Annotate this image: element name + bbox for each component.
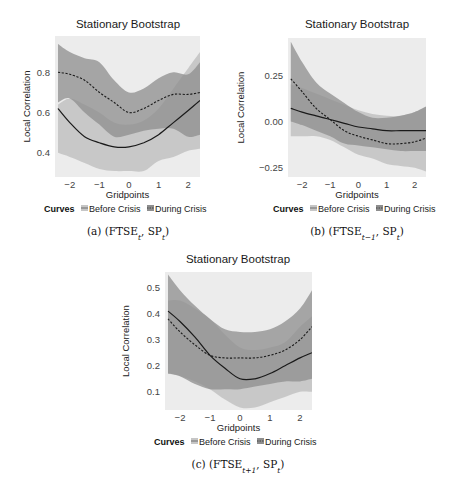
y-tick-label: 0.00 xyxy=(265,116,284,127)
legend-label-during: During Crisis xyxy=(265,437,317,447)
chart-panel-c: Stationary Bootstrap−2−10120.10.20.30.40… xyxy=(120,253,317,475)
legend-label-during: During Crisis xyxy=(384,204,436,214)
y-tick-label: 0.25 xyxy=(265,70,284,81)
x-tick-label: 2 xyxy=(412,179,417,190)
subfigure-caption: (a) (FTSEt, SPt) xyxy=(87,225,169,242)
y-axis-label: Local Correlation xyxy=(21,71,32,143)
legend-label-before: Before Crisis xyxy=(89,204,141,214)
y-axis-label: Local Correlation xyxy=(120,305,131,377)
x-tick-label: −2 xyxy=(297,179,308,190)
y-tick-label: 0.1 xyxy=(147,386,160,397)
subfigure-caption: (b) (FTSEt−1, SPt) xyxy=(310,225,404,242)
y-tick-label: 0.8 xyxy=(37,67,50,78)
legend: CurvesBefore CrisisDuring Crisis xyxy=(273,204,436,214)
chart-panel-b: Stationary Bootstrap−2−1012−0.250.000.25… xyxy=(235,18,436,242)
chart-panel-a: Stationary Bootstrap−2−10120.40.60.8Grid… xyxy=(21,18,207,242)
y-tick-label: −0.25 xyxy=(259,162,283,173)
x-tick-label: −2 xyxy=(64,179,75,190)
chart-title: Stationary Bootstrap xyxy=(76,18,180,30)
x-tick-label: 2 xyxy=(297,412,302,423)
legend-label-before: Before Crisis xyxy=(199,437,251,447)
y-tick-label: 0.3 xyxy=(147,334,160,345)
legend-label-before: Before Crisis xyxy=(318,204,370,214)
figure: Stationary Bootstrap−2−10120.40.60.8Grid… xyxy=(0,0,451,486)
x-tick-label: 1 xyxy=(156,179,161,190)
y-tick-label: 0.4 xyxy=(147,308,160,319)
x-axis-label: Gridpoints xyxy=(217,422,261,433)
y-tick-label: 0.4 xyxy=(37,147,50,158)
x-tick-label: 2 xyxy=(186,179,191,190)
legend-title: Curves xyxy=(154,437,185,447)
x-tick-label: −1 xyxy=(94,179,105,190)
x-tick-label: −1 xyxy=(205,412,216,423)
chart-title: Stationary Bootstrap xyxy=(305,18,409,30)
legend-title: Curves xyxy=(44,204,75,214)
x-tick-label: −2 xyxy=(175,412,186,423)
x-tick-label: 1 xyxy=(267,412,272,423)
legend-title: Curves xyxy=(273,204,304,214)
y-tick-label: 0.2 xyxy=(147,360,160,371)
subfigure-caption: (c) (FTSEt+1, SPt) xyxy=(192,458,285,475)
chart-title: Stationary Bootstrap xyxy=(186,253,290,265)
y-tick-label: 0.5 xyxy=(147,282,160,293)
legend: CurvesBefore CrisisDuring Crisis xyxy=(44,204,207,214)
x-axis-label: Gridpoints xyxy=(335,189,379,200)
y-tick-label: 0.6 xyxy=(37,107,50,118)
x-tick-label: 1 xyxy=(384,179,389,190)
x-axis-label: Gridpoints xyxy=(106,189,150,200)
x-tick-label: −1 xyxy=(325,179,336,190)
y-axis-label: Local Correlation xyxy=(235,72,246,144)
legend-label-during: During Crisis xyxy=(155,204,207,214)
legend: CurvesBefore CrisisDuring Crisis xyxy=(154,437,317,447)
